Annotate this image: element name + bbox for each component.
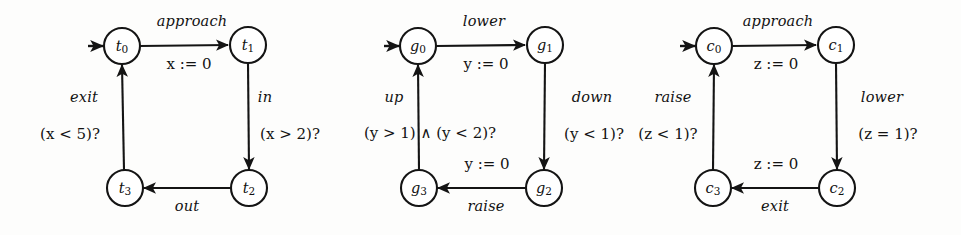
gate-left-event-label: up	[384, 89, 403, 105]
controller-automaton: c0 c1 c2 c3	[680, 27, 855, 206]
edge-g1-g2	[544, 63, 545, 169]
edge-c3-c0	[713, 65, 714, 170]
train-automaton: t0 t1 t2 t3	[88, 27, 267, 206]
gate-top-event-label: lower	[463, 13, 505, 29]
edge-t1-t2	[248, 63, 249, 169]
edge-g0-g1	[436, 45, 525, 46]
gate-left-guard-label: (y > 1) ∧ (y < 2)?	[364, 124, 496, 142]
edge-c1-c2	[836, 63, 837, 169]
gate-bottom-assign-label: y := 0	[464, 155, 509, 173]
edge-g3-g0	[418, 65, 419, 170]
gate-automaton: g0 g1 g2 g3	[384, 27, 563, 206]
edge-c0-c1	[732, 45, 816, 46]
controller-right-event-label: lower	[861, 89, 903, 105]
gate-right-guard-label: (y < 1)?	[564, 125, 624, 143]
gate-bottom-event-label: raise	[467, 198, 504, 214]
controller-bottom-assign-label: z := 0	[754, 155, 799, 173]
edge-t0-t1	[140, 45, 228, 46]
controller-left-guard-label: (z < 1)?	[638, 125, 697, 143]
train-left-event-label: exit	[70, 89, 98, 105]
controller-bottom-event-label: exit	[761, 198, 789, 214]
controller-right-guard-label: (z = 1)?	[858, 125, 917, 143]
controller-top-assign-label: z := 0	[754, 55, 799, 73]
gate-right-event-label: down	[572, 89, 613, 105]
controller-left-event-label: raise	[654, 89, 691, 105]
gate-top-assign-label: y := 0	[463, 55, 508, 73]
train-right-guard-label: (x > 2)?	[260, 125, 320, 143]
controller-top-event-label: approach	[743, 13, 814, 29]
train-bottom-event-label: out	[175, 198, 200, 214]
timed-automata-figure: t0 t1 t2 t3 g0 g1 g2 g3	[0, 0, 961, 235]
train-top-assign-label: x := 0	[166, 55, 211, 73]
train-top-event-label: approach	[157, 13, 228, 29]
train-left-guard-label: (x < 5)?	[40, 125, 100, 143]
edge-t3-t0	[122, 65, 124, 170]
train-right-event-label: in	[258, 89, 272, 105]
